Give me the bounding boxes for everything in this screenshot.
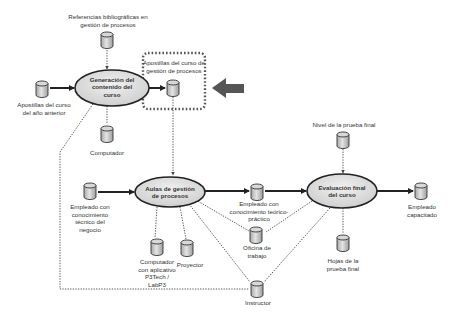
database-icon-course-notes xyxy=(167,80,179,97)
database-icon-final-test-level xyxy=(337,132,349,149)
trained-employee-label: Empleado capacitado xyxy=(402,203,442,218)
references-label: Referencias bibliográficas en gestión de… xyxy=(62,13,154,28)
office-label: Oficina de trabajo xyxy=(238,244,276,259)
database-icon-references xyxy=(101,32,113,49)
course-notes-label: Apostillas del curso de gestión de proce… xyxy=(140,59,208,74)
diagram-canvas xyxy=(0,0,454,319)
previous-notes-label: Apostillas del curso del año anterior xyxy=(8,101,80,116)
projector-label: Proyector xyxy=(172,261,208,269)
employee-technical-label: Empleado con conocimiento técnico del ne… xyxy=(62,203,118,233)
process-generation-label: Generación del contenido del curso xyxy=(82,76,142,98)
database-icon-computer-app xyxy=(151,239,163,256)
database-icon-final-test-sheets xyxy=(337,235,349,252)
database-icon-employee-technical xyxy=(84,183,96,200)
final-test-sheets-label: Hojas de la prueba final xyxy=(318,257,368,272)
database-icon-office xyxy=(250,227,262,244)
computer-label: Computador xyxy=(82,149,132,157)
process-evaluation-label: Evaluación final del curso xyxy=(312,184,372,199)
final-test-level-label: Nivel de la prueba final xyxy=(305,121,383,129)
employee-theory-label: Empleado con conocimiento teórico- práct… xyxy=(222,200,296,223)
database-icon-previous-notes xyxy=(36,81,48,98)
process-classroom-label: Aulas de gestión de procesos xyxy=(140,185,200,200)
database-icon-computer xyxy=(101,126,113,143)
instructor-label: Instructor xyxy=(236,299,280,307)
database-icon-projector xyxy=(181,240,193,257)
left-arrow-icon xyxy=(212,78,244,98)
database-icon-instructor xyxy=(251,281,263,298)
database-icon-trained-employee xyxy=(415,183,427,200)
database-icon-employee-theory xyxy=(251,184,263,201)
